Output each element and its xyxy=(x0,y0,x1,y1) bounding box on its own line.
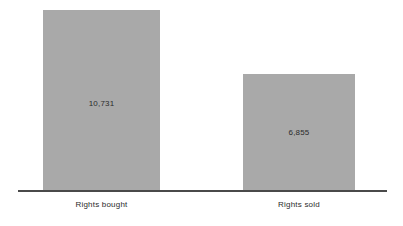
x-axis-category-label-rights-bought: Rights bought xyxy=(43,200,160,209)
plot-area: 10,731 6,855 Rights bought Rights sold xyxy=(0,0,403,226)
x-axis-category-label-rights-sold: Rights sold xyxy=(243,200,355,209)
bar-value-label-rights-sold: 6,855 xyxy=(243,128,355,137)
bar-chart: 10,731 6,855 Rights bought Rights sold xyxy=(0,0,403,226)
x-axis-baseline xyxy=(18,190,387,192)
bar-rights-sold: 6,855 xyxy=(243,74,355,191)
bar-rights-bought: 10,731 xyxy=(43,10,160,191)
bar-value-label-rights-bought: 10,731 xyxy=(43,99,160,108)
